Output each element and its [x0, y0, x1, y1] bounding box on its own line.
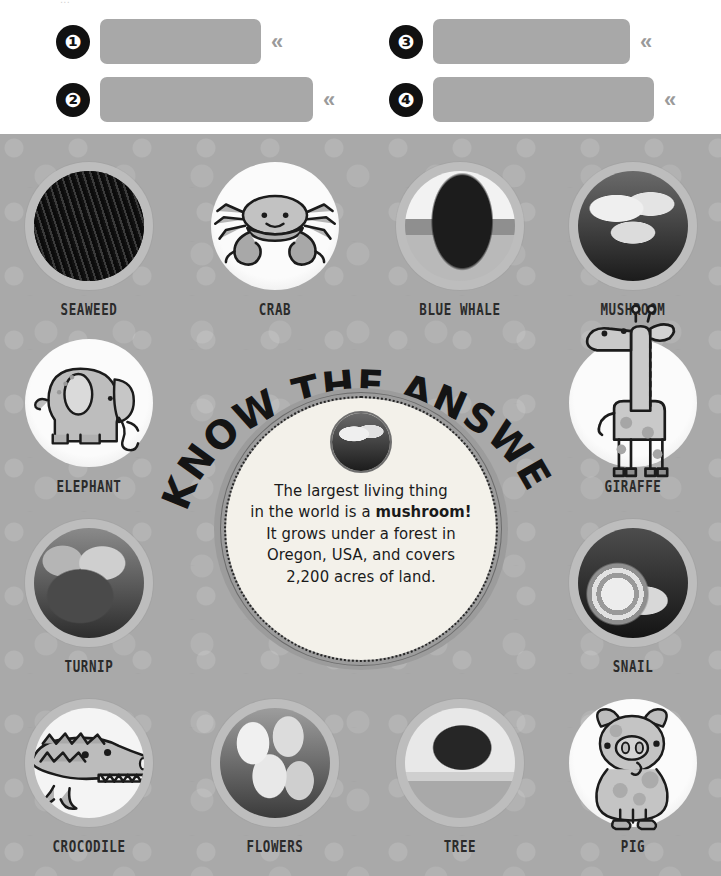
answer-chevron-1-icon[interactable]: « — [271, 31, 281, 53]
badge-line-1: The largest living thing — [236, 480, 486, 501]
badge-fact-text: The largest living thing in the world is… — [236, 480, 486, 587]
tile-label-elephant: ELEPHANT — [4, 477, 174, 496]
crocodile-illustration-icon — [34, 708, 144, 818]
seaweed-photo-icon — [34, 171, 144, 281]
badge-line-5: 2,200 acres of land. — [236, 566, 486, 587]
answer-row-4: ❹ « — [389, 77, 674, 122]
badge-line-3: It grows under a forest in — [236, 523, 486, 544]
answer-chevron-4-icon[interactable]: « — [664, 89, 674, 111]
blue-whale-disc — [396, 162, 524, 290]
badge-line-4: Oregon, USA, and covers — [236, 544, 486, 565]
tile-giraffe[interactable]: GIRAFFE — [548, 339, 718, 492]
pig-disc — [569, 699, 697, 827]
tile-blue-whale[interactable]: BLUE WHALE — [375, 162, 545, 315]
badge-line-2: in the world is a mushroom! — [236, 501, 486, 522]
answer-input-4[interactable] — [433, 77, 654, 122]
seaweed-disc — [25, 162, 153, 290]
clipped-header-text: ... — [0, 0, 721, 9]
answer-input-2[interactable] — [100, 77, 313, 122]
pig-illustration-icon — [569, 695, 697, 831]
elephant-disc — [25, 339, 153, 467]
mushroom-photo-icon — [578, 171, 688, 281]
answer-panel: ... ❶ « ❷ « ❸ « ❹ « — [0, 0, 721, 134]
mushroom-disc — [569, 162, 697, 290]
tree-disc — [396, 699, 524, 827]
badge-line-2b: mushroom! — [375, 502, 471, 521]
snail-disc — [569, 519, 697, 647]
answer-row-3: ❸ « — [389, 19, 650, 64]
tile-label-blue-whale: BLUE WHALE — [375, 300, 545, 319]
crocodile-disc — [25, 699, 153, 827]
page-root: ... ❶ « ❷ « ❸ « ❹ « SEAWE — [0, 0, 721, 876]
blue-whale-photo-icon — [405, 171, 515, 281]
turnip-disc — [25, 519, 153, 647]
tile-label-pig: PIG — [548, 837, 718, 856]
tile-pig[interactable]: PIG — [548, 699, 718, 852]
giraffe-illustration-icon — [561, 319, 706, 488]
snail-photo-icon — [578, 528, 688, 638]
tile-crocodile[interactable]: CROCODILE — [4, 699, 174, 852]
answer-row-2: ❷ « — [56, 77, 333, 122]
tile-flowers[interactable]: FLOWERS — [190, 699, 360, 852]
turnip-photo-icon — [34, 528, 144, 638]
badge-line-2a: in the world is a — [250, 502, 375, 521]
answer-chevron-2-icon[interactable]: « — [323, 89, 333, 111]
answer-chevron-3-icon[interactable]: « — [640, 31, 650, 53]
answer-number-2: ❷ — [56, 83, 90, 117]
crab-illustration-icon — [211, 158, 339, 294]
badge-paper: The largest living thing in the world is… — [226, 398, 496, 660]
elephant-illustration-icon — [25, 335, 153, 471]
flowers-disc — [211, 699, 339, 827]
tile-label-tree: TREE — [375, 837, 545, 856]
tree-photo-icon — [405, 708, 515, 818]
answer-row-1: ❶ « — [56, 19, 281, 64]
answer-number-3: ❸ — [389, 25, 423, 59]
tile-label-turnip: TURNIP — [4, 657, 174, 676]
tile-elephant[interactable]: ELEPHANT — [4, 339, 174, 492]
answer-number-4: ❹ — [389, 83, 423, 117]
tile-tree[interactable]: TREE — [375, 699, 545, 852]
tile-label-giraffe: GIRAFFE — [548, 477, 718, 496]
answer-input-1[interactable] — [100, 19, 261, 64]
tile-crab[interactable]: CRAB — [190, 162, 360, 315]
answer-number-1: ❶ — [56, 25, 90, 59]
answer-input-3[interactable] — [433, 19, 630, 64]
answer-badge: I KNOW THE ANSWER! The largest living th… — [186, 330, 536, 670]
mushroom-thumb-icon — [332, 413, 390, 471]
tile-seaweed[interactable]: SEAWEED — [4, 162, 174, 315]
picture-board: SEAWEED — [0, 134, 721, 876]
badge-mushroom-thumbnail — [330, 411, 392, 473]
tile-label-crocodile: CROCODILE — [4, 837, 174, 856]
tile-label-snail: SNAIL — [548, 657, 718, 676]
badge-disc: The largest living thing in the world is… — [214, 388, 508, 670]
tile-turnip[interactable]: TURNIP — [4, 519, 174, 672]
giraffe-disc — [569, 339, 697, 467]
tile-snail[interactable]: SNAIL — [548, 519, 718, 672]
flowers-photo-icon — [220, 708, 330, 818]
crab-disc — [211, 162, 339, 290]
tile-label-crab: CRAB — [190, 300, 360, 319]
tile-label-flowers: FLOWERS — [190, 837, 360, 856]
tile-label-seaweed: SEAWEED — [4, 300, 174, 319]
tile-mushroom[interactable]: MUSHROOM — [548, 162, 718, 315]
